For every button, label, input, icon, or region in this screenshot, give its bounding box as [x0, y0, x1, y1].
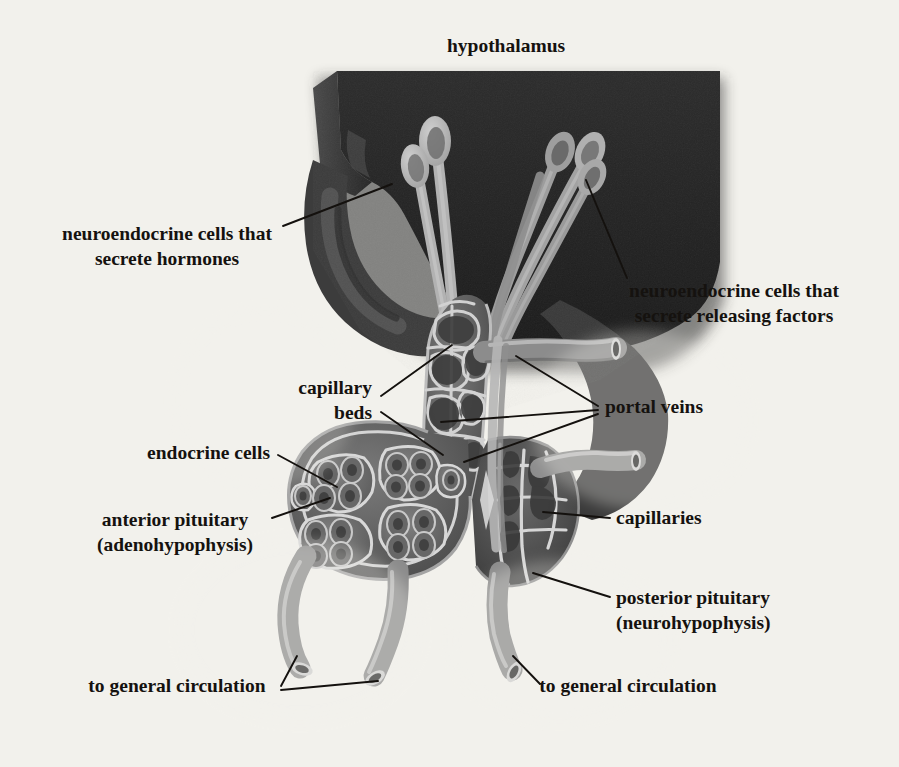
label-line: anterior pituitary: [102, 509, 249, 530]
label-line: secrete hormones: [95, 248, 240, 269]
label-portal-veins: portal veins: [605, 396, 703, 417]
label-line: to general circulation: [88, 675, 265, 696]
label-line: secrete releasing factors: [635, 305, 834, 326]
label-line: endocrine cells: [147, 442, 270, 463]
label-line: (adenohypophysis): [97, 534, 253, 556]
label-line: portal veins: [605, 396, 703, 417]
hypothalamus-pituitary-figure: hypothalamus neuroendocrine cells thatse…: [0, 0, 899, 767]
label-line: beds: [334, 402, 372, 423]
label-capillaries: capillaries: [616, 507, 702, 528]
label-line: capillaries: [616, 507, 702, 528]
label-line: capillary: [298, 377, 372, 398]
label-to-general-circulation-left: to general circulation: [88, 675, 265, 696]
label-line: posterior pituitary: [616, 587, 770, 608]
label-line: to general circulation: [539, 675, 716, 696]
figure-title: hypothalamus: [447, 35, 566, 56]
posterior-efferent-vessel: [540, 451, 641, 471]
label-line: neuroendocrine cells that: [629, 280, 839, 301]
label-line: neuroendocrine cells that: [62, 223, 272, 244]
label-to-general-circulation-right: to general circulation: [539, 675, 716, 696]
label-line: (neurohypophysis): [616, 612, 771, 634]
label-endocrine-cells: endocrine cells: [147, 442, 270, 463]
